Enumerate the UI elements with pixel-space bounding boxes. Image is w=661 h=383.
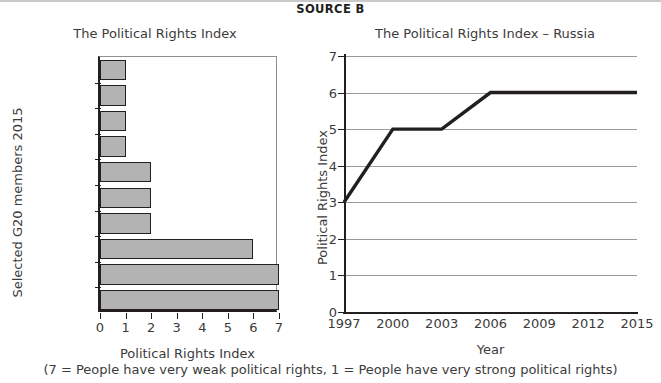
category-tick [95, 83, 101, 84]
bar-chart: The Political Rights Index Selected G20 … [0, 20, 310, 365]
category-tick [95, 236, 101, 237]
category-tick [95, 262, 101, 263]
bar-x-tick-label: 7 [275, 321, 283, 334]
bar-chart-y-axis-label: Selected G20 members 2015 [10, 83, 25, 323]
bar-x-tick [228, 313, 229, 319]
bar [100, 60, 126, 80]
category-tick [95, 287, 101, 288]
y-tick-label: 5 [329, 123, 337, 136]
y-tick [338, 56, 345, 57]
y-tick [338, 202, 345, 203]
year-tick-label: 2003 [425, 317, 458, 330]
bar-x-tick [151, 313, 152, 319]
year-tick-label: 2015 [620, 317, 653, 330]
year-tick-label: 2006 [474, 317, 507, 330]
bar-chart-x-axis-label: Political Rights Index [98, 346, 277, 361]
bar [100, 162, 151, 182]
category-tick [95, 108, 101, 109]
category-tick [95, 134, 101, 135]
year-tick-label: 2000 [376, 317, 409, 330]
figure-caption: (7 = People have very weak political rig… [0, 362, 661, 377]
y-tick [338, 166, 345, 167]
year-tick-label: 2009 [523, 317, 556, 330]
bar [100, 85, 126, 105]
bar [100, 264, 279, 284]
source-b-figure: SOURCE B The Political Rights Index Sele… [0, 0, 661, 383]
bar-x-tick-label: 2 [147, 321, 155, 334]
bar-x-tick [100, 313, 101, 319]
bar [100, 111, 126, 131]
bar-x-tick [202, 313, 203, 319]
y-tick-label: 3 [329, 196, 337, 209]
bar-chart-title: The Political Rights Index [0, 26, 310, 41]
bar-x-tick [279, 313, 280, 319]
line-chart-plot-area [344, 56, 637, 312]
y-tick [338, 239, 345, 240]
y-tick-label: 1 [329, 269, 337, 282]
y-tick [338, 275, 345, 276]
bar-x-tick [177, 313, 178, 319]
bar [100, 239, 253, 259]
line-chart: The Political Rights Index – Russia Poli… [310, 20, 661, 365]
line-chart-x-axis-label: Year [344, 342, 637, 357]
bar-x-tick-label: 4 [198, 321, 206, 334]
russia-series-line [344, 56, 637, 312]
line-chart-y-axis-label: Political Rights Index [315, 98, 330, 298]
year-tick-label: 1997 [327, 317, 360, 330]
bar-x-tick-label: 6 [249, 321, 257, 334]
source-heading: SOURCE B [0, 2, 661, 16]
y-tick [338, 93, 345, 94]
bar-x-tick [126, 313, 127, 319]
bar-x-tick-label: 3 [173, 321, 181, 334]
category-tick [95, 185, 101, 186]
bar-x-tick-label: 1 [121, 321, 129, 334]
y-tick-label: 2 [329, 232, 337, 245]
y-tick [338, 129, 345, 130]
y-tick [338, 312, 345, 313]
y-tick-label: 4 [329, 159, 337, 172]
bar [100, 290, 279, 310]
y-tick-label: 7 [329, 50, 337, 63]
line-chart-title: The Political Rights Index – Russia [320, 26, 650, 41]
year-tick-label: 2012 [572, 317, 605, 330]
bar [100, 136, 126, 156]
bar-x-tick [253, 313, 254, 319]
line-chart-x-axis [343, 312, 638, 314]
bar-x-tick-label: 5 [224, 321, 232, 334]
y-tick-label: 6 [329, 86, 337, 99]
bar [100, 188, 151, 208]
bar-x-tick-label: 0 [96, 321, 104, 334]
category-tick [95, 159, 101, 160]
bar-chart-plot-area: 01234567 [98, 56, 277, 312]
category-tick [95, 211, 101, 212]
bar [100, 213, 151, 233]
